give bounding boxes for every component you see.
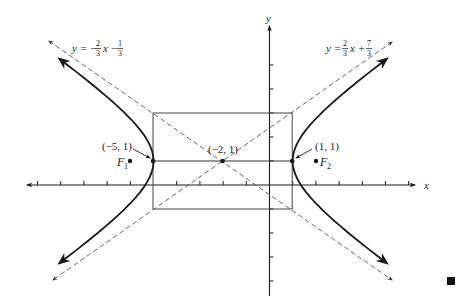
focus-f1-label: F 1 — [116, 155, 128, 171]
svg-text:7: 7 — [367, 39, 371, 48]
right-vertex-pointer — [296, 149, 312, 158]
svg-text:y =: y = — [325, 42, 341, 54]
svg-text:2: 2 — [327, 162, 331, 171]
svg-text:x +: x + — [349, 42, 365, 54]
x-axis: x — [27, 179, 429, 191]
end-mark-square — [447, 277, 455, 285]
y-axis-ticks — [270, 65, 274, 281]
y-axis: y — [265, 12, 274, 296]
center-point — [220, 159, 225, 164]
asymptote-negative-label: y = − 2 3 x − 1 3 — [71, 39, 123, 58]
x-axis-label: x — [423, 179, 429, 191]
x-axis-ticks — [38, 181, 409, 185]
svg-text:3: 3 — [343, 49, 347, 58]
svg-text:1: 1 — [118, 39, 122, 48]
right-vertex-label: (1, 1) — [315, 140, 339, 153]
hyperbola-left-branch — [59, 59, 153, 263]
focus-f2-point — [314, 159, 318, 163]
hyperbola-right-branch — [293, 59, 387, 263]
svg-text:2: 2 — [343, 39, 347, 48]
svg-text:3: 3 — [118, 49, 122, 58]
right-vertex-point — [290, 159, 295, 164]
asymptote-positive-label: y = 2 3 x + 7 3 — [325, 39, 372, 58]
left-vertex-label: (−5, 1) — [102, 140, 132, 153]
center-label: (−2, 1) — [208, 143, 238, 156]
svg-text:3: 3 — [96, 49, 100, 58]
svg-text:x −: x − — [102, 42, 118, 54]
focus-f2-label: F 2 — [319, 155, 331, 171]
hyperbola-diagram: x y (−5, 1) (−2, 1) (1, 1) F 1 F 2 y = −… — [0, 0, 458, 305]
svg-text:2: 2 — [96, 39, 100, 48]
svg-text:3: 3 — [367, 49, 371, 58]
y-axis-label: y — [265, 12, 271, 24]
svg-text:y = −: y = − — [71, 42, 97, 54]
left-vertex-pointer — [133, 149, 150, 158]
svg-text:1: 1 — [124, 162, 128, 171]
focus-f1-point — [128, 159, 132, 163]
left-vertex-point — [151, 159, 156, 164]
